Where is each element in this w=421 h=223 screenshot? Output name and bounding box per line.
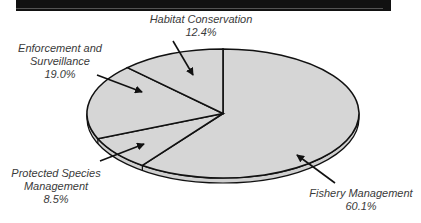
- label-protected-species: Protected Species Management 8.5%: [2, 167, 110, 206]
- label-fishery-management: Fishery Management 60.1%: [301, 187, 421, 213]
- label-habitat-conservation: Habitat Conservation 12.4%: [136, 13, 266, 39]
- pie-slices: [87, 49, 359, 178]
- label-enforcement-surveillance: Enforcement and Surveillance 19.0%: [10, 42, 110, 81]
